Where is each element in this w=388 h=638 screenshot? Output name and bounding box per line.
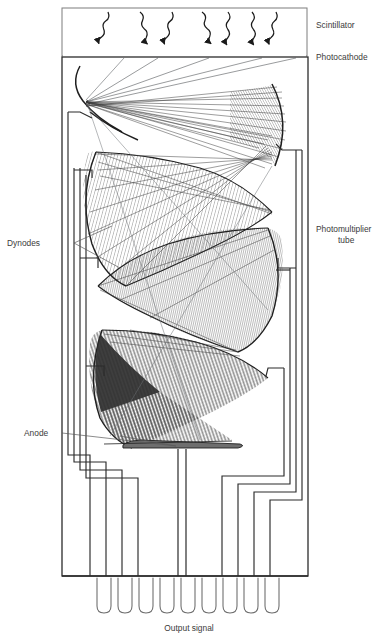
scintillator-box — [62, 8, 307, 57]
label-anode: Anode — [24, 428, 49, 438]
label-photomultiplier-tube-line2: tube — [338, 235, 355, 245]
label-scintillator: Scintillator — [316, 20, 355, 30]
label-dynodes: Dynodes — [7, 238, 40, 248]
label-output-signal: Output signal — [164, 623, 213, 633]
label-photomultiplier-tube-line1: Photomultiplier — [316, 224, 372, 234]
photomultiplier-tube-diagram: Scintillator Photocathode Photomultiplie… — [0, 0, 388, 638]
anode-lead — [178, 449, 186, 576]
output-pins — [97, 578, 279, 613]
dynode-1 — [230, 84, 283, 166]
label-photocathode: Photocathode — [316, 52, 368, 62]
